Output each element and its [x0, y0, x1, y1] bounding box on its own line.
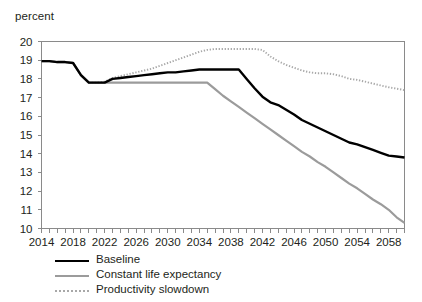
svg-text:12: 12 — [20, 185, 33, 197]
chart-legend: Baseline Constant life expectancy Produc… — [55, 252, 355, 297]
y-axis-tick-marks — [38, 42, 42, 229]
legend-item-productivity-slowdown: Productivity slowdown — [55, 282, 355, 297]
svg-text:2034: 2034 — [187, 236, 213, 248]
svg-text:13: 13 — [20, 166, 33, 178]
legend-label-constant-life-expectancy: Constant life expectancy — [96, 268, 221, 281]
legend-swatch-constant-life-expectancy-icon — [55, 269, 89, 281]
svg-text:17: 17 — [20, 92, 33, 104]
svg-text:2014: 2014 — [29, 236, 55, 248]
svg-text:2030: 2030 — [155, 236, 181, 248]
svg-text:11: 11 — [21, 204, 33, 216]
svg-text:2042: 2042 — [250, 236, 276, 248]
legend-label-baseline: Baseline — [96, 253, 140, 266]
legend-swatch-baseline-icon — [55, 254, 89, 266]
svg-text:2038: 2038 — [218, 236, 244, 248]
legend-item-constant-life-expectancy: Constant life expectancy — [55, 267, 355, 282]
svg-text:2050: 2050 — [313, 236, 339, 248]
series-lines — [42, 49, 405, 223]
svg-text:18: 18 — [20, 73, 33, 85]
x-axis-tick-marks — [42, 229, 405, 233]
svg-text:2058: 2058 — [376, 236, 402, 248]
svg-text:20: 20 — [20, 36, 33, 48]
svg-text:14: 14 — [20, 148, 33, 160]
legend-swatch-productivity-slowdown-icon — [55, 284, 89, 296]
svg-text:10: 10 — [20, 223, 33, 235]
svg-text:2054: 2054 — [344, 236, 370, 248]
svg-text:2018: 2018 — [60, 236, 86, 248]
svg-text:19: 19 — [20, 54, 33, 66]
series-line-baseline — [42, 61, 405, 157]
x-axis-tick-labels: 2014201820222026203020342038204220462050… — [29, 236, 402, 248]
svg-text:2022: 2022 — [92, 236, 118, 248]
svg-text:2046: 2046 — [281, 236, 307, 248]
svg-text:15: 15 — [20, 129, 33, 141]
y-axis-tick-labels: 1011121314151617181920 — [20, 36, 33, 235]
chart-container: percent 1011121314151617181920 201420182… — [0, 0, 422, 302]
svg-text:16: 16 — [20, 110, 33, 122]
svg-text:2026: 2026 — [123, 236, 149, 248]
legend-label-productivity-slowdown: Productivity slowdown — [96, 283, 209, 296]
legend-item-baseline: Baseline — [55, 252, 355, 267]
